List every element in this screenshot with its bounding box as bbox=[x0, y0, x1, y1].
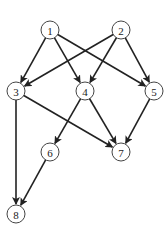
node-label: 7 bbox=[118, 147, 124, 159]
edge-2-to-4 bbox=[90, 38, 116, 83]
node-5: 5 bbox=[145, 82, 163, 100]
node-4: 4 bbox=[76, 82, 94, 100]
edge-6-to-8 bbox=[21, 160, 46, 205]
node-label: 3 bbox=[13, 86, 19, 98]
node-label: 6 bbox=[47, 147, 53, 159]
node-6: 6 bbox=[41, 143, 59, 161]
edge-4-to-6 bbox=[55, 99, 81, 144]
edge-5-to-7 bbox=[126, 99, 150, 143]
node-3: 3 bbox=[7, 82, 25, 100]
node-label: 5 bbox=[151, 86, 157, 98]
dag-diagram: 12345678 bbox=[0, 0, 166, 231]
node-label: 8 bbox=[13, 209, 19, 221]
edges-layer bbox=[16, 35, 150, 206]
node-8: 8 bbox=[7, 205, 25, 223]
node-7: 7 bbox=[112, 143, 130, 161]
edge-1-to-5 bbox=[58, 35, 146, 86]
node-2: 2 bbox=[112, 21, 130, 39]
edge-2-to-3 bbox=[25, 35, 114, 86]
node-label: 4 bbox=[82, 86, 88, 98]
node-label: 1 bbox=[47, 25, 53, 37]
node-1: 1 bbox=[41, 21, 59, 39]
node-label: 2 bbox=[118, 25, 124, 37]
